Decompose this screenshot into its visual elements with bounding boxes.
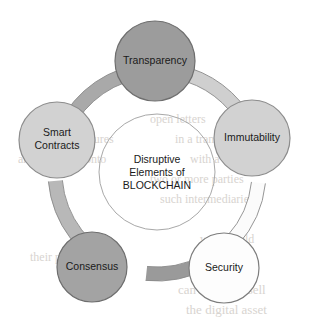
center-text-line-1: Disruptive <box>134 153 181 165</box>
node-label-immutability: Immutability <box>224 131 281 143</box>
node-smart-contracts[interactable]: SmartContracts <box>19 102 95 178</box>
node-immutability[interactable]: Immutability <box>214 100 290 176</box>
ring-segment-security-to-consensus <box>233 183 259 241</box>
node-transparency[interactable]: Transparency <box>115 21 195 101</box>
node-label-consensus: Consensus <box>66 260 119 272</box>
diagram-canvas: open lettersblockchain ensuresin a trans… <box>0 0 313 321</box>
node-label-smart-contracts: Smart <box>43 126 71 138</box>
center-text-line-2: Elements of <box>129 166 185 178</box>
node-label-transparency: Transparency <box>123 54 188 66</box>
node-label-smart-contracts: Contracts <box>35 139 80 151</box>
node-consensus[interactable]: Consensus <box>57 232 127 302</box>
node-security[interactable]: Security <box>189 233 259 303</box>
center-text-line-3: BLOCKCHAIN <box>123 179 191 191</box>
center-text-group: Disruptive Elements of BLOCKCHAIN <box>123 153 191 191</box>
blockchain-elements-diagram: Disruptive Elements of BLOCKCHAIN Transp… <box>0 0 313 321</box>
node-label-security: Security <box>205 261 244 273</box>
